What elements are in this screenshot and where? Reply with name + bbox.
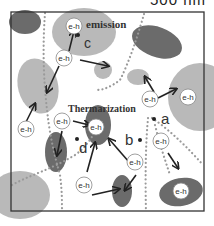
carrier-top: e-h (56, 50, 72, 66)
point-d-label: d (79, 139, 87, 156)
carrier-a: e-h (153, 133, 169, 149)
carrier-b: e-h (127, 154, 143, 170)
carrier-thermalization: e-h (88, 119, 104, 135)
point-b-label: b (125, 131, 133, 148)
thermalization-label: Thermarization (68, 103, 136, 114)
svg-text:e-h: e-h (78, 181, 90, 190)
carrier-left: e-h (18, 121, 34, 137)
svg-text:e-h: e-h (175, 187, 187, 196)
emission-label: emission (86, 18, 126, 30)
carrier-center-left: e-h (54, 113, 70, 129)
carrier-bottom-right: e-h (173, 183, 189, 199)
svg-text:e-h: e-h (129, 158, 141, 167)
carrier-d: e-h (76, 177, 92, 193)
svg-text:e-h: e-h (144, 95, 156, 104)
svg-text:e-h: e-h (182, 93, 194, 102)
point-a-label: a (161, 110, 170, 127)
svg-text:e-h: e-h (58, 54, 70, 63)
svg-text:e-h: e-h (56, 117, 68, 126)
diagram-canvas: e-h e-h e-h e-h e-h e-h e-h e-h e-h e-h … (0, 0, 214, 226)
carrier-right-mid: e-h (142, 91, 158, 107)
carrier-emission: e-h (66, 18, 82, 34)
svg-text:e-h: e-h (68, 22, 80, 31)
carrier-right-domain: e-h (180, 89, 196, 105)
point-c-label: c (84, 35, 91, 51)
svg-text:e-h: e-h (155, 137, 167, 146)
svg-text:e-h: e-h (20, 125, 32, 134)
svg-text:e-h: e-h (90, 123, 102, 132)
